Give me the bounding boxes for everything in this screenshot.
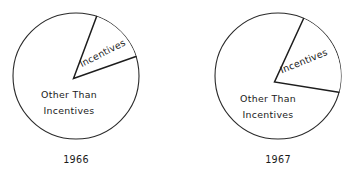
chart-caption-1967: 1967 [265, 154, 291, 165]
pie-charts-canvas: Incentives Other Than Incentives 1966 In… [0, 0, 358, 176]
pie-chart-figure: Incentives Other Than Incentives 1966 In… [0, 0, 358, 176]
slice-label-other-than-1966-line2: Incentives [43, 105, 94, 116]
pie-chart-1967: Incentives Other Than Incentives 1967 [215, 13, 341, 165]
slice-label-other-than-1966-line1: Other Than [41, 89, 97, 100]
pie-chart-1966: Incentives Other Than Incentives 1966 [13, 13, 139, 165]
slice-label-other-than-1967-line2: Incentives [242, 109, 293, 120]
chart-caption-1966: 1966 [63, 154, 89, 165]
slice-label-other-than-1967-line1: Other Than [240, 93, 296, 104]
